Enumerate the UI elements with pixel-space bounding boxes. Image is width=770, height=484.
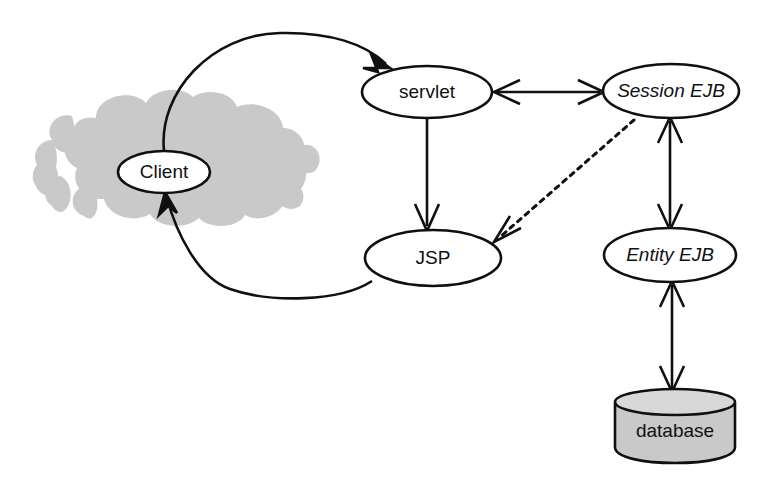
session-ejb-label: Session EJB (617, 80, 725, 101)
edge-session-ejb-to-jsp (494, 120, 634, 242)
node-database[interactable]: database (615, 389, 735, 463)
edge-entity-ejb-to-database (660, 281, 684, 392)
node-client[interactable]: Client (118, 151, 210, 193)
node-jsp[interactable]: JSP (365, 230, 501, 286)
node-session-ejb[interactable]: Session EJB (603, 64, 739, 118)
servlet-label: servlet (399, 81, 456, 102)
database-label: database (636, 420, 714, 441)
diagram-canvas: Client servlet Session EJB JSP Entity EJ… (0, 0, 770, 484)
architecture-diagram: Client servlet Session EJB JSP Entity EJ… (0, 0, 770, 484)
edge-servlet-to-session-ejb (494, 80, 604, 104)
node-entity-ejb[interactable]: Entity EJB (604, 228, 736, 282)
jsp-label: JSP (416, 247, 451, 268)
edge-session-ejb-to-entity-ejb (658, 117, 682, 230)
edge-servlet-to-jsp (415, 117, 439, 231)
database-cylinder-top[interactable] (615, 389, 735, 415)
entity-ejb-label: Entity EJB (626, 244, 714, 265)
node-servlet[interactable]: servlet (362, 66, 492, 118)
client-label: Client (140, 161, 189, 182)
